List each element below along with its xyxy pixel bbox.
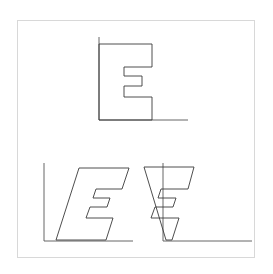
panel-sheared-right [44, 163, 133, 241]
panel-sheared-left [144, 163, 252, 241]
geometry-diagram-canvas [0, 0, 273, 274]
panel-original [99, 37, 188, 120]
letter-e-outline-sheared-right [56, 168, 129, 240]
figure-root [0, 0, 273, 274]
letter-e-outline-original [99, 44, 152, 120]
letter-e-outline-sheared-left [144, 167, 194, 240]
